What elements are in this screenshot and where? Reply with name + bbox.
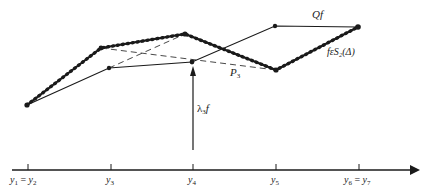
qf-label: Qf [312,9,323,20]
tick-label-y1-y2: y1 = y2 [10,175,37,187]
p3-dashed-lines [101,34,276,70]
lambda-f-label: λ3f [197,103,209,116]
arrow-up-icon [190,66,196,76]
p3-label: P3 [230,67,240,80]
tick-label-y4: y4 [188,175,196,187]
tick-label-y3: y3 [106,175,114,187]
spline-space-label: fεS₂(Δ) [327,47,355,57]
lambda-arrow [190,66,196,150]
diagram-canvas [0,0,430,194]
tick-label-y6-y7: y6 = y7 [344,175,371,187]
axis-arrow-icon [410,165,420,175]
spline-diagram: Qf fεS₂(Δ) P3 λ3f y1 = y2 y3 y4 y5 y6 = … [0,0,430,194]
tick-label-y5: y5 [271,175,279,187]
